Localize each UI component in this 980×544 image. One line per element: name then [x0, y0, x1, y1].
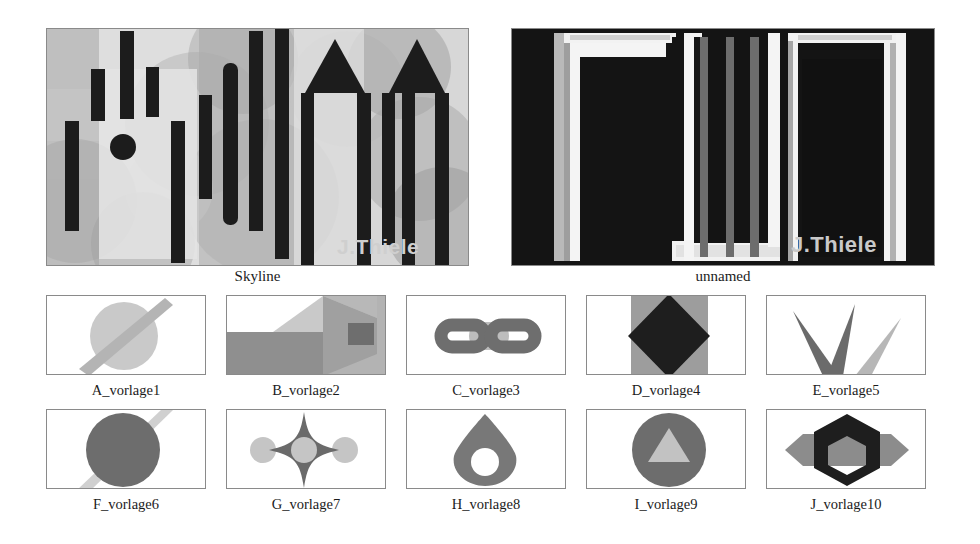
thumbnail-i-vorlage9: [586, 409, 746, 489]
caption-h-vorlage8: H_vorlage8: [406, 495, 566, 513]
thumbnail-h-vorlage8: [406, 409, 566, 489]
caption-unnamed: unnamed: [511, 266, 935, 286]
g-vorlage7-graphic: [227, 410, 386, 489]
e-vorlage5-graphic: [767, 296, 926, 375]
caption-g-vorlage7: G_vorlage7: [226, 495, 386, 513]
thumbnail-b-vorlage2: [226, 295, 386, 375]
caption-d-vorlage4: D_vorlage4: [586, 381, 746, 399]
thumbnail-g-vorlage7: [226, 409, 386, 489]
thumbnail-j-vorlage10: [766, 409, 926, 489]
h-vorlage8-graphic: [407, 410, 566, 489]
c-vorlage3-graphic: [407, 296, 566, 375]
caption-i-vorlage9: I_vorlage9: [586, 495, 746, 513]
caption-f-vorlage6: F_vorlage6: [46, 495, 206, 513]
artwork-unnamed: J.Thiele: [511, 28, 935, 266]
caption-a-vorlage1: A_vorlage1: [46, 381, 206, 399]
caption-c-vorlage3: C_vorlage3: [406, 381, 566, 399]
artwork-unnamed-canvas: [512, 29, 934, 265]
j-vorlage10-graphic: [767, 410, 926, 489]
artwork-skyline-canvas: [47, 29, 468, 265]
a-vorlage1-graphic: [47, 296, 206, 375]
skyline-graphic: [47, 29, 468, 265]
thumbnail-d-vorlage4: [586, 295, 746, 375]
caption-b-vorlage2: B_vorlage2: [226, 381, 386, 399]
d-vorlage4-graphic: [587, 296, 746, 375]
caption-e-vorlage5: E_vorlage5: [766, 381, 926, 399]
thumbnail-c-vorlage3: [406, 295, 566, 375]
thumbnail-f-vorlage6: [46, 409, 206, 489]
thumbnail-e-vorlage5: [766, 295, 926, 375]
b-vorlage2-graphic: [227, 296, 386, 375]
i-vorlage9-graphic: [587, 410, 746, 489]
caption-skyline: Skyline: [46, 266, 469, 286]
artwork-skyline: J.Thiele: [46, 28, 469, 266]
f-vorlage6-graphic: [47, 410, 206, 489]
caption-j-vorlage10: J_vorlage10: [766, 495, 926, 513]
thumbnail-a-vorlage1: [46, 295, 206, 375]
unnamed-graphic: [512, 29, 934, 265]
